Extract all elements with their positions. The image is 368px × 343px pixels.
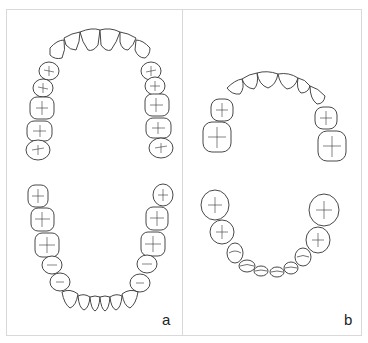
panel-a-upper-arch [26,29,173,160]
panel-label-a: a [162,311,170,328]
panel-a-lower-arch [28,184,173,311]
panel-label-b: b [344,311,352,328]
panel-b-upper-arch [203,72,346,161]
dental-arches-diagram [0,0,368,343]
panel-b-lower-arch [201,190,339,277]
